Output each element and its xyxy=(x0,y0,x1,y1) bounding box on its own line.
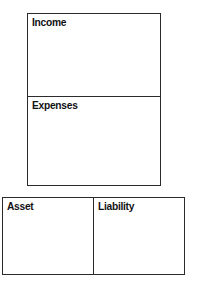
diagram-canvas: Income Expenses Asset Liability xyxy=(0,0,198,286)
asset-content[interactable] xyxy=(3,214,93,274)
liability-label: Liability xyxy=(98,200,134,213)
liability-cell[interactable]: Liability xyxy=(94,198,183,274)
liability-content[interactable] xyxy=(94,214,183,274)
income-row[interactable]: Income xyxy=(28,14,160,97)
asset-cell[interactable]: Asset xyxy=(3,198,94,274)
expenses-row[interactable]: Expenses xyxy=(28,97,160,184)
income-content[interactable] xyxy=(28,30,160,96)
asset-label: Asset xyxy=(7,200,33,213)
expenses-label: Expenses xyxy=(32,99,78,112)
income-statement-block: Income Expenses xyxy=(27,13,161,186)
income-label: Income xyxy=(32,16,66,29)
expenses-content[interactable] xyxy=(28,113,160,184)
balance-sheet-block: Asset Liability xyxy=(2,197,185,275)
